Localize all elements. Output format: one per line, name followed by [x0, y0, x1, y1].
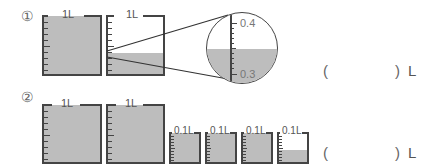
scale-ticks	[279, 133, 285, 162]
magnifier-upper-label: 0.4	[240, 17, 255, 29]
magnifier-lower-label: 0.3	[240, 68, 255, 80]
beaker-0.1l-partial: 0.1L	[277, 133, 309, 164]
problem-number-2: ②	[21, 91, 34, 104]
scale-ticks	[171, 133, 177, 162]
beaker-0.1l-full: 0.1L	[205, 133, 237, 164]
answer-blank-2[interactable]	[334, 144, 392, 162]
scale-ticks	[44, 105, 50, 162]
capacity-label: 1L	[61, 97, 73, 109]
magnified-ticks	[230, 13, 238, 83]
answer-unit-1: L	[408, 62, 416, 79]
magnifier-circle: 0.4 0.3	[206, 12, 278, 84]
beaker-1l-full: 1L	[42, 105, 102, 164]
liquid-fill	[108, 105, 163, 162]
answer-close-paren-1: )	[395, 62, 400, 79]
answer-open-paren-1: (	[323, 62, 328, 79]
scale-ticks	[243, 133, 249, 162]
capacity-label: 1L	[125, 97, 137, 109]
answer-unit-2: L	[408, 144, 416, 161]
beaker-0.1l-full: 0.1L	[169, 133, 201, 164]
answer-blank-1[interactable]	[334, 62, 392, 80]
liquid-fill	[44, 105, 100, 162]
scale-ticks	[108, 105, 114, 162]
answer-open-paren-2: (	[323, 144, 328, 161]
beaker-0.1l-full: 0.1L	[241, 133, 273, 164]
beaker-1l-full: 1L	[106, 105, 165, 164]
scale-ticks	[207, 133, 213, 162]
answer-close-paren-2: )	[395, 144, 400, 161]
